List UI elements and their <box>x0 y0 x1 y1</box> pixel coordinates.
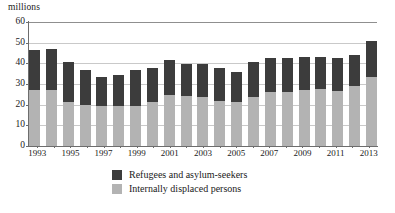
bar-2004 <box>214 22 225 146</box>
y-tick-label-50: 50 <box>0 38 25 48</box>
x-tick-label-2011: 2011 <box>327 148 345 159</box>
bar-segment-refugees-2006 <box>248 62 259 97</box>
bar-segment-idp-2010 <box>315 89 326 146</box>
y-tick-label-0: 0 <box>0 141 25 151</box>
bar-1999 <box>130 22 141 146</box>
legend-label-refugees: Refugees and asylum-seekers <box>129 169 247 181</box>
bar-segment-refugees-2001 <box>164 60 175 95</box>
x-tick-mark-2008 <box>286 146 287 148</box>
bar-segment-idp-1995 <box>63 102 74 146</box>
bar-segment-refugees-2010 <box>315 57 326 89</box>
bar-segment-idp-2011 <box>332 91 343 146</box>
x-tick-mark-1994 <box>54 146 55 148</box>
bar-segment-refugees-2007 <box>265 58 276 92</box>
bar-segment-idp-2000 <box>147 102 158 146</box>
bar-segment-refugees-2013 <box>366 41 377 77</box>
x-tick-mark-2002 <box>186 146 187 148</box>
bar-segment-refugees-1996 <box>80 70 91 105</box>
legend-label-idp: Internally displaced persons <box>129 183 241 195</box>
bar-segment-idp-2006 <box>248 97 259 146</box>
bar-2007 <box>265 22 276 146</box>
y-tick-mark-0 <box>26 146 29 147</box>
y-tick-label-10: 10 <box>0 121 25 131</box>
bar-segment-refugees-2000 <box>147 68 158 102</box>
y-tick-label-60: 60 <box>0 17 25 27</box>
bar-segment-refugees-1995 <box>63 62 74 101</box>
x-tick-label-2009: 2009 <box>293 148 311 159</box>
bar-2001 <box>164 22 175 146</box>
bar-segment-idp-2004 <box>214 101 225 146</box>
bar-2010 <box>315 22 326 146</box>
chart-legend: Refugees and asylum-seekers Internally d… <box>112 168 247 196</box>
y-tick-label-40: 40 <box>0 59 25 69</box>
bar-2005 <box>231 22 242 146</box>
bar-segment-refugees-1999 <box>130 70 141 106</box>
x-tick-label-2005: 2005 <box>227 148 245 159</box>
x-tick-label-1993: 1993 <box>28 148 46 159</box>
bar-segment-refugees-1993 <box>29 50 40 90</box>
bar-segment-refugees-2004 <box>214 68 225 101</box>
bar-segment-idp-1999 <box>130 106 141 146</box>
bar-2013 <box>366 22 377 146</box>
bar-segment-idp-2003 <box>197 97 208 146</box>
x-tick-mark-2010 <box>319 146 320 148</box>
bar-segment-idp-2009 <box>299 90 310 146</box>
x-tick-label-2013: 2013 <box>360 148 378 159</box>
bar-2011 <box>332 22 343 146</box>
bar-segment-idp-2008 <box>282 92 293 146</box>
bar-segment-refugees-2012 <box>349 55 360 86</box>
y-axis-unit-caption: millions <box>8 2 40 13</box>
bar-1996 <box>80 22 91 146</box>
bar-segment-refugees-2003 <box>197 64 208 98</box>
stacked-bar-chart: millions 0102030405060 19931995199719992… <box>0 0 395 213</box>
x-tick-label-2007: 2007 <box>260 148 278 159</box>
x-tick-label-1999: 1999 <box>128 148 146 159</box>
bar-segment-idp-1996 <box>80 105 91 146</box>
bar-1997 <box>96 22 107 146</box>
bar-segment-idp-1993 <box>29 90 40 146</box>
bar-1998 <box>113 22 124 146</box>
legend-swatch-dark-icon <box>112 170 122 180</box>
bar-segment-idp-1998 <box>113 106 124 146</box>
bar-2000 <box>147 22 158 146</box>
legend-swatch-light-icon <box>112 184 122 194</box>
bar-2003 <box>197 22 208 146</box>
bar-series-group <box>29 22 377 146</box>
bar-segment-idp-2007 <box>265 92 276 146</box>
bar-1994 <box>46 22 57 146</box>
x-axis-tick-labels: 1993199519971999200120032005200720092011… <box>29 148 377 162</box>
plot-area: 0102030405060 <box>29 22 377 146</box>
bar-2006 <box>248 22 259 146</box>
bar-segment-refugees-2008 <box>282 58 293 91</box>
bar-segment-refugees-2011 <box>332 58 343 91</box>
y-tick-label-30: 30 <box>0 79 25 89</box>
bar-segment-refugees-1997 <box>96 77 107 106</box>
x-tick-label-2001: 2001 <box>161 148 179 159</box>
bar-2009 <box>299 22 310 146</box>
x-tick-label-1997: 1997 <box>95 148 113 159</box>
bar-segment-idp-2012 <box>349 86 360 146</box>
x-tick-mark-2012 <box>352 146 353 148</box>
bar-segment-refugees-2009 <box>299 57 310 90</box>
bar-segment-idp-2005 <box>231 102 242 146</box>
bar-2002 <box>181 22 192 146</box>
bar-2008 <box>282 22 293 146</box>
x-tick-label-1995: 1995 <box>61 148 79 159</box>
x-tick-mark-2000 <box>153 146 154 148</box>
bar-segment-idp-2001 <box>164 95 175 146</box>
bar-segment-idp-2002 <box>181 96 192 146</box>
bar-segment-idp-1994 <box>46 90 57 146</box>
bar-segment-refugees-1994 <box>46 49 57 90</box>
legend-item-idp: Internally displaced persons <box>112 182 247 196</box>
legend-item-refugees: Refugees and asylum-seekers <box>112 168 247 182</box>
x-tick-mark-2006 <box>253 146 254 148</box>
x-tick-label-2003: 2003 <box>194 148 212 159</box>
x-tick-mark-1996 <box>87 146 88 148</box>
bar-segment-refugees-2002 <box>181 64 192 96</box>
bar-segment-refugees-1998 <box>113 75 124 107</box>
bar-1995 <box>63 22 74 146</box>
x-tick-mark-1998 <box>120 146 121 148</box>
bar-segment-idp-1997 <box>96 106 107 146</box>
bar-1993 <box>29 22 40 146</box>
y-tick-label-20: 20 <box>0 100 25 110</box>
